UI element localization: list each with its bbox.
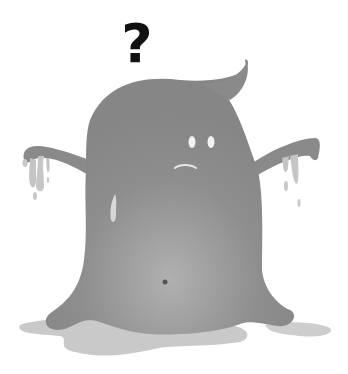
- drip: [23, 159, 28, 167]
- illustration-canvas: ?: [0, 0, 348, 374]
- right-eye: [208, 136, 215, 148]
- drip: [284, 181, 288, 191]
- question-mark: ?: [112, 14, 162, 74]
- drip: [46, 158, 50, 172]
- drip: [33, 192, 37, 200]
- drip: [298, 199, 301, 207]
- ghost-illustration: [0, 0, 348, 374]
- drip: [282, 156, 289, 172]
- drip: [290, 154, 299, 184]
- drip: [47, 177, 49, 183]
- drip: [36, 156, 44, 191]
- navel: [163, 280, 168, 285]
- ghost-body: [46, 60, 294, 335]
- left-eye: [189, 136, 196, 148]
- drip: [29, 158, 36, 187]
